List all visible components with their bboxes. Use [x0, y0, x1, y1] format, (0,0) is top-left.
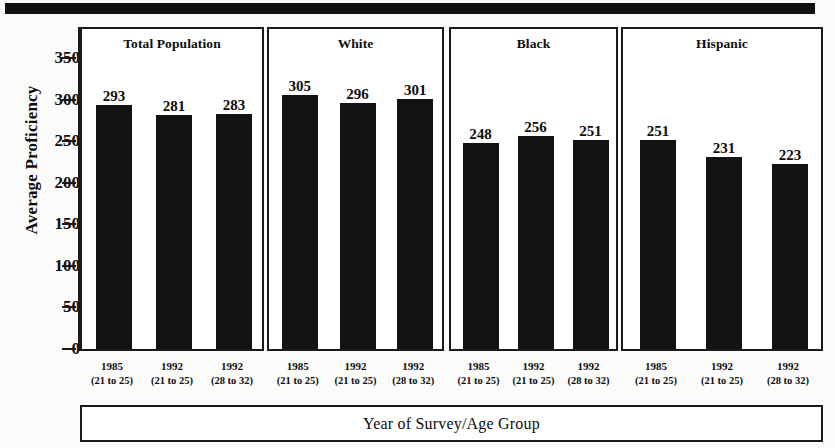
bar: [463, 143, 499, 349]
x-axis-year: 1992: [748, 359, 828, 374]
y-axis-tick-mark: [62, 182, 76, 184]
bar: [216, 114, 252, 349]
y-axis-tick-mark: [62, 306, 76, 308]
bar: [282, 95, 318, 349]
panel-title: White: [269, 36, 442, 52]
y-axis-tick-mark: [62, 348, 76, 350]
chart-figure: Average Proficiency 35030025020015010050…: [0, 0, 835, 448]
x-axis-age-group: (28 to 32): [748, 374, 828, 388]
bar-value-label: 305: [270, 78, 330, 95]
y-axis: 350300250200150100500: [0, 0, 80, 448]
bar-value-label: 301: [385, 82, 445, 99]
panel-title: Hispanic: [623, 36, 821, 52]
bar-value-label: 223: [760, 147, 820, 164]
bar-value-label: 251: [561, 123, 621, 140]
y-axis-tick-mark: [62, 265, 76, 267]
x-axis-title-box: Year of Survey/Age Group: [80, 405, 823, 442]
bar: [640, 140, 676, 349]
panel-title: Total Population: [82, 36, 262, 52]
y-axis-tick-mark: [62, 223, 76, 225]
y-axis-tick-mark: [62, 140, 76, 142]
bar-value-label: 283: [204, 97, 264, 114]
bar: [340, 103, 376, 349]
bar: [156, 115, 192, 349]
bar: [397, 99, 433, 349]
panel-title: Black: [451, 36, 616, 52]
bar: [573, 140, 609, 349]
bar-value-label: 293: [84, 88, 144, 105]
y-axis-tick-mark: [62, 99, 76, 101]
bar: [96, 105, 132, 349]
chart-panel: Black248256251: [449, 27, 618, 351]
bar-value-label: 256: [506, 119, 566, 136]
bar: [706, 157, 742, 349]
bar-value-label: 231: [694, 140, 754, 157]
bar-value-label: 281: [144, 98, 204, 115]
bar-value-label: 248: [451, 126, 511, 143]
x-axis-title: Year of Survey/Age Group: [82, 415, 821, 433]
bar: [518, 136, 554, 349]
chart-panel: White305296301: [267, 27, 444, 351]
chart-panel: Hispanic251231223: [621, 27, 823, 351]
bar: [772, 164, 808, 349]
chart-panel: Total Population293281283: [80, 27, 264, 351]
bar-value-label: 251: [628, 123, 688, 140]
y-axis-tick-mark: [62, 57, 76, 59]
bar-value-label: 296: [328, 86, 388, 103]
x-axis-category-label: 1992(28 to 32): [748, 359, 828, 387]
top-rule-divider: [5, 3, 815, 14]
